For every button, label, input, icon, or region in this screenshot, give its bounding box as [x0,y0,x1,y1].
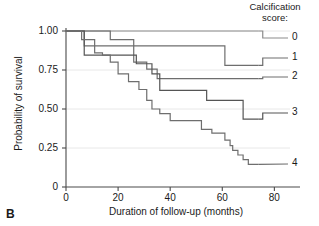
legend-connector-score-2 [259,77,288,79]
x-tick-label-0: 0 [46,192,86,203]
legend-label-score-0: 0 [292,31,298,42]
legend-label-score-4: 4 [292,157,298,168]
legend-title-line-2: score: [232,12,318,23]
survival-chart-figure: 00.250.500.751.00 020406080 Probability … [0,0,319,226]
x-tick-label-4: 80 [254,192,294,203]
x-tick-label-2: 40 [150,192,190,203]
x-tick-label-3: 60 [202,192,242,203]
legend-label-score-3: 3 [292,106,298,117]
x-axis-title: Duration of follow-up (months) [60,206,292,217]
panel-label: B [6,207,15,221]
legend-title-line-1: Calcification [232,1,318,12]
legend-label-score-2: 2 [292,70,298,81]
legend-label-score-1: 1 [292,51,298,62]
legend-connector-score-0 [259,31,288,38]
legend-title: Calcification score: [232,1,318,23]
legend-connector-score-3 [259,113,288,119]
x-tick-label-1: 20 [98,192,138,203]
survival-curve-score-4 [66,31,259,164]
y-axis-title: Probability of survival [13,34,24,174]
legend-connector-score-1 [259,58,288,65]
y-tick-label-0: 0 [12,181,58,192]
legend-connector-lines [259,31,288,164]
gridlines [66,31,290,148]
survival-curves [66,31,259,164]
